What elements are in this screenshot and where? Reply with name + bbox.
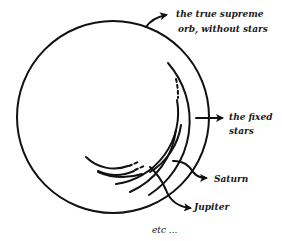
supreme-orb-label-line2: orb, without stars	[178, 24, 268, 35]
etc-label: etc ...	[152, 225, 177, 236]
inner-arc-1	[86, 157, 128, 169]
supreme-orb-circle	[17, 21, 209, 213]
supreme-orb-arrow	[146, 15, 166, 27]
saturn-arc-inner	[116, 100, 178, 184]
supreme-orb-label-line1: the true supreme	[176, 9, 263, 20]
inner-arc-2-dashed	[135, 166, 144, 170]
fixed-stars-label-line2: stars	[229, 126, 254, 137]
jupiter-label: Jupiter	[194, 202, 229, 213]
saturn-arc-dashed	[176, 79, 178, 98]
saturn-label: Saturn	[214, 174, 248, 185]
inner-arc-1-dashed	[129, 162, 138, 166]
fixed-stars-label-line1: the fixed	[229, 112, 273, 123]
saturn-arc-outer	[130, 130, 176, 192]
